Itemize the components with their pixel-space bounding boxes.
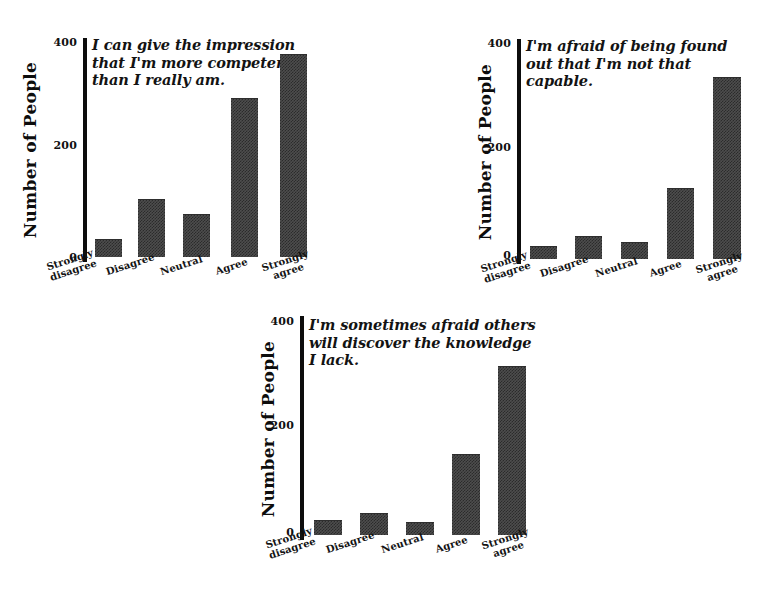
- bar-strongly-agree-3: [498, 366, 526, 535]
- chart-title-line-1-1: I can give the impression: [92, 36, 295, 53]
- y-tick-label-200-1: 200: [53, 139, 77, 152]
- chart-title-1: I can give the impression that I'm more …: [92, 36, 307, 89]
- chart-title-line-1-2: that I'm more competent: [92, 54, 293, 71]
- y-axis-line-3: [300, 316, 304, 540]
- plot-area-2: 400 200 0 I'm afraid of being found out …: [517, 39, 745, 264]
- bar-strongly-agree-2: [713, 77, 741, 259]
- chart-panel-1: Number of People 400 200 0 I can give th…: [0, 0, 380, 300]
- bar-agree-1: [231, 98, 258, 257]
- y-axis-line-1: [83, 38, 87, 262]
- bar-agree-2: [667, 188, 694, 259]
- chart-panel-3: Number of People 400 200 0 I'm sometimes…: [198, 277, 578, 587]
- chart-title-line-3-1: I'm sometimes afraid others: [309, 316, 536, 333]
- plot-area-1: 400 200 0 I can give the impression that…: [83, 38, 311, 262]
- bar-neutral-1: [183, 214, 210, 257]
- bar-agree-3: [452, 454, 480, 535]
- chart-title-line-2-1: I'm afraid of being found: [526, 37, 727, 54]
- y-tick-label-400-2: 400: [487, 37, 511, 50]
- y-tick-label-200-2: 200: [487, 141, 511, 154]
- plot-area-3: 400 200 0 I'm sometimes afraid others wi…: [300, 316, 532, 540]
- y-axis-title-1: Number of People: [20, 60, 40, 240]
- chart-title-3: I'm sometimes afraid others will discove…: [309, 316, 537, 369]
- y-tick-label-200-3: 200: [270, 419, 294, 432]
- chart-title-line-1-3: than I really am.: [92, 71, 225, 88]
- chart-title-line-2-2: out that I'm not that: [526, 55, 691, 72]
- y-axis-line-2: [517, 39, 521, 264]
- chart-panel-2: Number of People 400 200 0 I'm afraid of…: [415, 0, 775, 300]
- bar-strongly-agree-1: [280, 54, 307, 257]
- chart-title-2: I'm afraid of being found out that I'm n…: [526, 37, 742, 90]
- chart-title-line-2-3: capable.: [526, 72, 593, 89]
- bar-disagree-1: [138, 199, 165, 257]
- y-tick-label-400-3: 400: [270, 315, 294, 328]
- chart-title-line-3-3: I lack.: [309, 351, 359, 368]
- chart-title-line-3-2: will discover the knowledge: [309, 334, 532, 351]
- y-tick-label-400-1: 400: [53, 36, 77, 49]
